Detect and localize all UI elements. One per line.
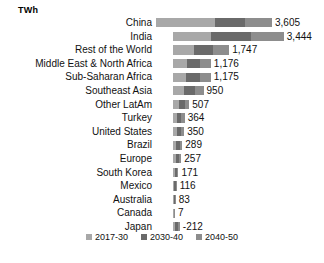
legend-swatch-icon [86, 234, 92, 240]
stacked-bar[interactable] [173, 154, 181, 163]
stacked-bar[interactable] [173, 45, 229, 54]
chart-row: Australia83 [0, 193, 324, 207]
category-label: Rest of the World [0, 43, 152, 57]
bar-segment-2030-40[interactable] [186, 73, 200, 82]
bar-segment-2040-50[interactable] [185, 100, 189, 109]
value-label: 171 [182, 166, 199, 180]
bar-segment-2040-50[interactable] [245, 18, 272, 27]
bar-chart: TWh China3,605India3,444Rest of the Worl… [0, 0, 324, 263]
stacked-bar[interactable] [156, 18, 272, 27]
category-label: Mexico [0, 179, 152, 193]
bar-segment-2040-50[interactable] [178, 222, 180, 231]
stacked-bar[interactable] [173, 113, 185, 122]
value-label: 950 [207, 84, 224, 98]
stacked-bar[interactable] [173, 181, 177, 190]
chart-row: Brazil289 [0, 138, 324, 152]
bar-container: 1,176 [156, 59, 324, 68]
category-label: Turkey [0, 111, 152, 125]
bar-container: 171 [156, 168, 324, 177]
bar-segment-2030-40[interactable] [194, 45, 213, 54]
chart-row: Europe257 [0, 152, 324, 166]
bar-segment-2040-50[interactable] [176, 181, 177, 190]
bar-container: 3,444 [156, 32, 324, 41]
bar-container: 1,175 [156, 73, 324, 82]
bar-segment-2030-40[interactable] [187, 59, 201, 68]
stacked-bar[interactable] [173, 127, 184, 136]
bar-segment-2040-50[interactable] [200, 59, 210, 68]
bar-segment-2040-50[interactable] [174, 209, 175, 218]
value-label: 7 [178, 206, 184, 220]
legend-item[interactable]: 2017-30 [86, 232, 128, 242]
legend-label: 2040-50 [205, 232, 238, 242]
chart-unit-label: TWh [18, 5, 38, 15]
bar-segment-2040-50[interactable] [251, 32, 284, 41]
chart-legend: 2017-302030-402040-50 [0, 232, 324, 242]
value-label: 116 [180, 179, 196, 193]
legend-swatch-icon [196, 234, 202, 240]
bar-segment-2030-40[interactable] [211, 32, 251, 41]
category-label: China [0, 16, 152, 30]
bar-segment-2040-50[interactable] [181, 127, 184, 136]
bar-segment-2040-50[interactable] [179, 154, 181, 163]
chart-row: Rest of the World1,747 [0, 43, 324, 57]
category-label: Brazil [0, 138, 152, 152]
stacked-bar[interactable] [173, 168, 178, 177]
category-label: South Korea [0, 166, 152, 180]
bar-container: 1,747 [156, 45, 324, 54]
bar-segment-2017-30[interactable] [173, 86, 184, 95]
bar-segment-2017-30[interactable] [173, 73, 186, 82]
chart-row: Turkey364 [0, 111, 324, 125]
chart-row: United States350 [0, 125, 324, 139]
bar-segment-2017-30[interactable] [173, 32, 211, 41]
value-label: 3,605 [275, 16, 300, 30]
legend-swatch-icon [141, 234, 147, 240]
value-label: 350 [187, 125, 204, 139]
bar-segment-2017-30[interactable] [173, 59, 187, 68]
bar-container: 289 [156, 141, 324, 150]
value-label: 1,747 [232, 43, 257, 57]
stacked-bar[interactable] [173, 100, 189, 109]
chart-row: Sub-Saharan Africa1,175 [0, 70, 324, 84]
bar-container: 364 [156, 113, 324, 122]
bar-container: 950 [156, 86, 324, 95]
chart-row: Other LatAm507 [0, 98, 324, 112]
legend-item[interactable]: 2030-40 [141, 232, 183, 242]
stacked-bar[interactable] [173, 73, 211, 82]
bar-container: 83 [156, 195, 324, 204]
value-label: 3,444 [287, 30, 312, 44]
bar-container: 116 [156, 181, 324, 190]
bar-segment-2040-50[interactable] [181, 113, 184, 122]
chart-row: Mexico116 [0, 179, 324, 193]
category-label: Australia [0, 193, 152, 207]
bar-segment-2017-30[interactable] [156, 18, 215, 27]
chart-row: Middle East & North Africa1,176 [0, 57, 324, 71]
bar-segment-2040-50[interactable] [177, 168, 179, 177]
stacked-bar[interactable] [173, 222, 180, 231]
legend-label: 2017-30 [95, 232, 128, 242]
stacked-bar[interactable] [173, 59, 211, 68]
chart-row: India3,444 [0, 30, 324, 44]
category-label: Middle East & North Africa [0, 57, 152, 71]
stacked-bar[interactable] [173, 32, 284, 41]
bar-segment-2030-40[interactable] [184, 86, 195, 95]
bar-segment-2040-50[interactable] [195, 86, 204, 95]
stacked-bar[interactable] [173, 141, 182, 150]
value-label: 83 [179, 193, 190, 207]
category-label: India [0, 30, 152, 44]
stacked-bar[interactable] [173, 195, 176, 204]
legend-item[interactable]: 2040-50 [196, 232, 238, 242]
stacked-bar[interactable] [173, 86, 204, 95]
bar-segment-2040-50[interactable] [213, 45, 229, 54]
stacked-bar[interactable] [173, 209, 175, 218]
category-label: Europe [0, 152, 152, 166]
bar-segment-2040-50[interactable] [175, 195, 176, 204]
bar-segment-2017-30[interactable] [173, 45, 194, 54]
category-label: Other LatAm [0, 98, 152, 112]
bar-container: 7 [156, 209, 324, 218]
bar-segment-2030-40[interactable] [215, 18, 246, 27]
bar-segment-2040-50[interactable] [180, 141, 183, 150]
legend-label: 2030-40 [150, 232, 183, 242]
category-label: Canada [0, 206, 152, 220]
bar-segment-2040-50[interactable] [200, 73, 211, 82]
bar-container: 507 [156, 100, 324, 109]
